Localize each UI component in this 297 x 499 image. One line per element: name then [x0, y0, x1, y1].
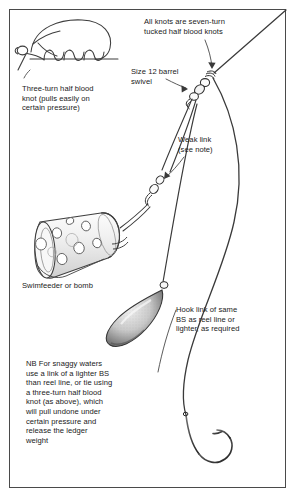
caption-barrel-swivel: Size 12 barrel swivel [131, 67, 193, 86]
caption-swimfeeder: Swimfeeder or bomb [22, 281, 142, 291]
caption-hook-link: Hook link of same BS as reel line or lig… [176, 305, 276, 334]
swimfeeder-cylinder [33, 213, 128, 279]
caption-three-turn-knot: Three-turn half blood knot (pulls easily… [22, 84, 130, 113]
feeder-attachment-line [120, 204, 150, 231]
caption-nb-note: NB For snaggy waters use a link of a lig… [26, 359, 136, 445]
caption-all-knots: All knots are seven-turn tucked half blo… [144, 17, 264, 36]
bomb-lead-weight [106, 282, 168, 347]
caption-weak-link: Weak link (see note) [178, 135, 240, 154]
three-turn-leader [24, 70, 30, 78]
bomb-link-line [163, 104, 197, 282]
three-turn-knot-detail [15, 20, 118, 70]
diagram-page: All knots are seven-turn tucked half blo… [0, 0, 297, 499]
fishing-hook [186, 415, 232, 462]
weak-link-connector [145, 174, 165, 206]
